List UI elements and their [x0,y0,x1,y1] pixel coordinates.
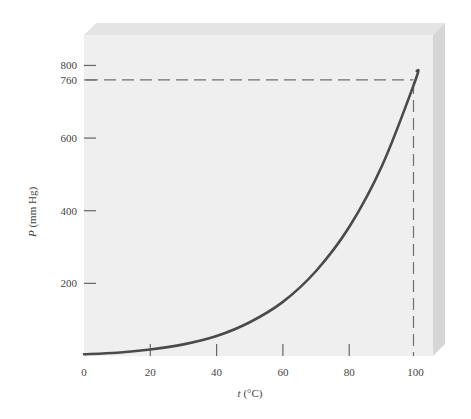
x-tick-label: 40 [211,366,223,378]
y-tick-label: 200 [61,277,78,289]
x-axis-title: t (°C) [238,387,263,400]
x-tick-label: 0 [81,366,87,378]
y-tick-label: 400 [61,205,78,217]
vapor-pressure-chart: 200400600760800 020406080100 t (°C) P (m… [0,0,471,419]
x-tick-label: 80 [344,366,356,378]
panel-top-face [84,23,445,35]
plot-area [84,35,433,356]
y-axis-title: P (mm Hg) [26,187,39,238]
panel-side-face [433,23,445,356]
y-tick-label: 800 [61,59,78,71]
x-tick-label: 60 [277,366,289,378]
x-tick-label: 100 [407,366,424,378]
y-tick-label: 760 [61,74,78,86]
x-tick-label: 20 [145,366,157,378]
y-tick-label: 600 [61,132,78,144]
